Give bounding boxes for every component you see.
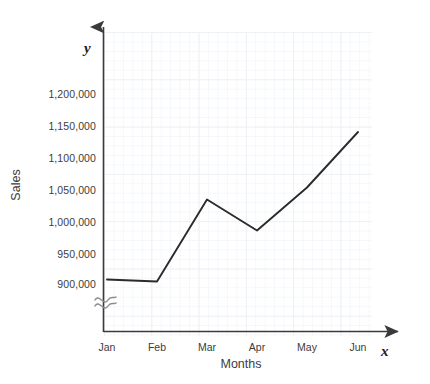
sales-data-line (107, 132, 358, 282)
squiggle-break-icon (95, 297, 116, 308)
chart-vector-layer (0, 0, 430, 384)
sales-line-chart: 1,200,000 1,150,000 1,100,000 1,050,000 … (0, 0, 430, 384)
